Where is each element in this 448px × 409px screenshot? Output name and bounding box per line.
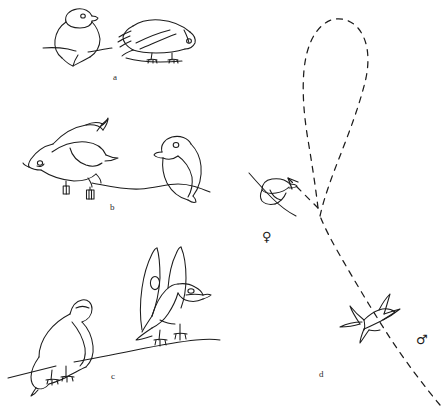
flying-male-bird	[340, 294, 400, 343]
panel-b-group	[23, 118, 210, 202]
bird-eye	[173, 143, 179, 148]
banded-leg-left	[63, 181, 69, 194]
male-symbol: ♂	[416, 333, 428, 346]
bird-display-postures-figure: a b c d ♀ ♂	[0, 0, 448, 409]
shoulder-spot	[150, 276, 159, 289]
bowing-bird	[23, 118, 118, 199]
upright-watching-bird	[154, 136, 201, 202]
fluffed-perched-bird	[55, 9, 100, 66]
line-art-canvas	[0, 0, 448, 409]
bird-eye	[37, 161, 42, 165]
panel-a-perch	[43, 48, 112, 52]
wings-raised-bird	[136, 247, 211, 346]
panel-a-group	[43, 9, 195, 66]
bird-eye	[81, 14, 86, 18]
dashed-loop-trajectory	[288, 19, 440, 405]
head-down-bird	[31, 300, 93, 396]
panel-label-a: a	[113, 72, 117, 82]
panel-d-group	[249, 19, 440, 405]
panel-label-c: c	[111, 371, 115, 381]
crouched-horizontal-bird	[118, 20, 195, 63]
panel-label-b: b	[110, 202, 115, 212]
banded-leg-right	[87, 187, 95, 199]
bird-eye	[188, 289, 194, 293]
female-symbol: ♀	[262, 230, 272, 243]
panel-label-d: d	[319, 369, 324, 379]
